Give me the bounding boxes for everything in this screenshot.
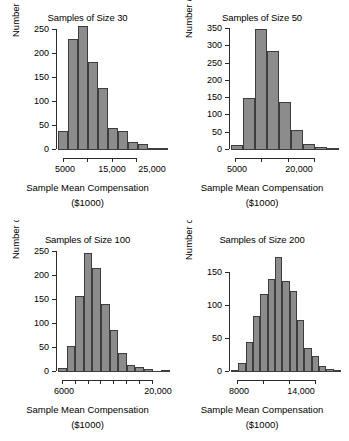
y-tick-label: 100 <box>20 96 49 106</box>
y-tick-label: 0 <box>20 144 49 154</box>
histogram-bar <box>279 102 291 150</box>
y-tick <box>225 305 229 306</box>
y-tick-label: 0 <box>193 366 222 376</box>
x-tick <box>126 380 127 384</box>
histogram-bar <box>67 346 76 372</box>
y-tick <box>52 53 56 54</box>
histogram-figure-grid: Samples of Size 30 Number of Samples 0 5… <box>0 0 349 441</box>
histogram-bar <box>128 142 138 150</box>
panel-samples-of-size-200: Samples of Size 200 Number of Samples 0 … <box>175 220 349 441</box>
x-tick-label: 6000 <box>54 386 74 396</box>
x-tick <box>237 380 238 384</box>
y-tick <box>225 114 229 115</box>
x-axis-line <box>63 158 137 159</box>
y-tick-label: 150 <box>191 92 222 102</box>
y-axis-line <box>229 272 230 371</box>
y-tick <box>52 149 56 150</box>
histogram-bar <box>253 316 260 372</box>
x-tick-label: 14,000 <box>287 386 315 396</box>
y-tick-label: 350 <box>191 23 222 33</box>
y-tick-label: 50 <box>193 333 222 343</box>
y-axis-line <box>56 29 57 149</box>
panel-title: Samples of Size 100 <box>0 234 175 245</box>
x-axis-title-line2: ($1000) <box>0 197 175 208</box>
x-tick-label: 25,000 <box>138 164 166 174</box>
histogram-bar <box>58 368 67 372</box>
y-tick <box>225 45 229 46</box>
y-tick <box>52 125 56 126</box>
y-tick-label: 50 <box>20 342 49 352</box>
histogram-bar <box>291 130 303 150</box>
y-tick-label: 100 <box>193 300 222 310</box>
y-tick-label: 200 <box>20 270 49 280</box>
x-tick <box>87 158 88 162</box>
x-tick <box>289 380 290 384</box>
histogram-bar <box>255 29 267 150</box>
histogram-bar <box>148 148 158 150</box>
histogram-bar <box>84 253 93 372</box>
histogram-bar <box>158 148 168 150</box>
x-axis-title-line2: ($1000) <box>0 419 175 430</box>
y-axis-title: Number of Samples <box>183 220 194 260</box>
histogram-bar <box>92 268 101 372</box>
y-tick <box>225 371 229 372</box>
histogram-bar <box>246 342 253 372</box>
histogram-bar <box>303 144 315 150</box>
y-tick-label: 150 <box>20 294 49 304</box>
y-tick-label: 250 <box>20 24 49 34</box>
y-tick <box>52 29 56 30</box>
histogram-bar <box>327 148 339 150</box>
x-tick <box>263 380 264 384</box>
histogram-bar <box>118 131 128 150</box>
histogram-bar <box>334 370 341 372</box>
x-tick <box>261 158 262 162</box>
x-tick <box>113 380 114 384</box>
x-tick <box>88 380 89 384</box>
histogram-bars <box>58 25 168 150</box>
x-tick-label: 20,000 <box>144 386 172 396</box>
histogram-bar <box>315 147 327 150</box>
x-axis-title-line2: ($1000) <box>175 197 349 208</box>
y-tick-label: 50 <box>20 120 49 130</box>
x-tick-label: 5000 <box>227 164 247 174</box>
y-tick <box>52 371 56 372</box>
y-tick <box>225 338 229 339</box>
y-tick <box>225 28 229 29</box>
x-axis-title-line1: Sample Mean Compensation <box>0 404 175 415</box>
histogram-bar <box>243 98 255 150</box>
y-tick <box>52 299 56 300</box>
histogram-bar <box>98 88 108 151</box>
x-axis-title-line2: ($1000) <box>175 419 349 430</box>
panel-title: Samples of Size 30 <box>0 12 175 23</box>
y-tick <box>52 347 56 348</box>
y-tick <box>52 251 56 252</box>
histogram-bar <box>88 62 98 150</box>
x-tick <box>314 158 315 162</box>
x-tick <box>112 158 113 162</box>
histogram-bars <box>58 247 170 372</box>
y-tick-label: 250 <box>191 58 222 68</box>
x-tick-label: 20,000 <box>285 164 313 174</box>
y-tick-label: 200 <box>20 48 49 58</box>
y-tick <box>225 63 229 64</box>
y-tick <box>225 272 229 273</box>
panel-samples-of-size-100: Samples of Size 100 Number of Samples 0 … <box>0 220 175 441</box>
x-tick <box>75 380 76 384</box>
y-tick <box>225 80 229 81</box>
y-tick <box>225 132 229 133</box>
histogram-bars <box>231 254 341 372</box>
y-tick-label: 150 <box>20 72 49 82</box>
histogram-bar <box>101 304 110 372</box>
y-tick-label: 0 <box>20 366 49 376</box>
histogram-bar <box>231 145 243 150</box>
y-tick-label: 100 <box>20 318 49 328</box>
x-tick <box>62 380 63 384</box>
x-axis-title-line1: Sample Mean Compensation <box>0 182 175 193</box>
panel-samples-of-size-30: Samples of Size 30 Number of Samples 0 5… <box>0 0 175 220</box>
x-tick <box>315 380 316 384</box>
histogram-bar <box>138 144 148 150</box>
histogram-bar <box>326 369 333 372</box>
histogram-bar <box>110 330 119 372</box>
x-tick-label: 8000 <box>229 386 249 396</box>
y-tick-label: 150 <box>193 267 222 277</box>
